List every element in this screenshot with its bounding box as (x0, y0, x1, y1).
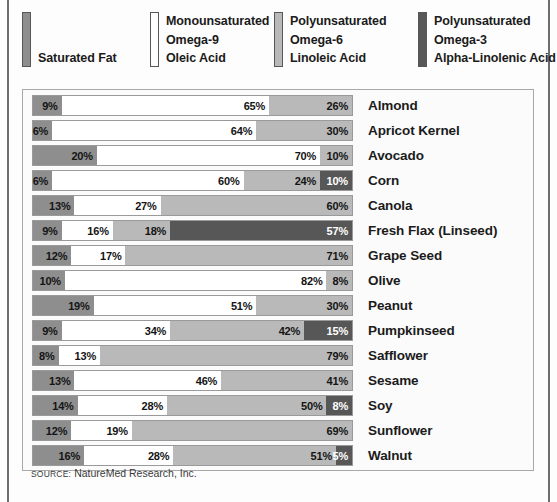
legend-item-omega6: Polyunsaturated Omega-6 Linoleic Acid (274, 12, 386, 68)
bar-segment-value: 8% (332, 275, 352, 287)
bar-segment-omega9: 34% (62, 321, 170, 340)
legend-label-omega9-line1: Monounsaturated (166, 12, 269, 31)
bar-segment-omega6: 30% (256, 296, 352, 315)
legend-label-omega6-line3: Linoleic Acid (290, 49, 386, 68)
bar-segment-omega9: 27% (74, 196, 160, 215)
row-category-label: Avocado (368, 148, 424, 163)
legend-label-omega3-line3: Alpha-Linolenic Acid (434, 49, 556, 68)
chart-row: 12%17%71%Grape Seed (32, 245, 497, 266)
bar-segment-value: 28% (142, 400, 167, 412)
bar-segment-sat: 6% (33, 121, 52, 140)
bar-segment-value: 64% (231, 125, 256, 137)
bar-segment-value: 42% (279, 325, 304, 337)
row-category-label: Peanut (368, 298, 412, 313)
bar-segment-value: 60% (218, 175, 243, 187)
bar-segment-sat: 10% (33, 271, 65, 290)
chart-page: Saturated Fat Monounsaturated Omega-9 Ol… (0, 0, 557, 502)
bar-segment-value: 70% (295, 150, 320, 162)
bar-segment-value: 30% (327, 300, 352, 312)
bar-segment-value: 28% (148, 450, 173, 462)
row-category-label: Olive (368, 273, 401, 288)
chart-panel: 9%65%26%Almond6%64%30%Apricot Kernel20%7… (22, 89, 534, 471)
frame-border-right (548, 0, 550, 502)
bar-segment-omega9: 13% (59, 346, 100, 365)
bar-segment-omega9: 16% (62, 221, 113, 240)
bar-segment-omega6: 69% (132, 421, 352, 440)
chart-row: 6%60%24%10%Corn (32, 170, 497, 191)
chart-row: 9%34%42%15%Pumpkinseed (32, 320, 497, 341)
bar-segment-sat: 12% (33, 421, 71, 440)
bar-segment-value: 17% (100, 250, 125, 262)
chart-row: 12%19%69%Sunflower (32, 420, 497, 441)
bar-segment-value: 51% (231, 300, 256, 312)
chart-row: 9%65%26%Almond (32, 95, 497, 116)
bar-segment-value: 19% (68, 300, 93, 312)
bar-segment-value: 41% (327, 375, 352, 387)
bar-segment-omega6: 24% (244, 171, 321, 190)
chart-row: 13%46%41%Sesame (32, 370, 497, 391)
chart-row: 16%28%51%5%Walnut (32, 445, 497, 466)
bar-segment-value: 57% (327, 225, 352, 237)
stacked-bar: 12%17%71% (32, 245, 353, 266)
chart-row: 9%16%18%57%Fresh Flax (Linseed) (32, 220, 497, 241)
row-category-label: Soy (368, 398, 392, 413)
stacked-bar: 20%70%10% (32, 145, 353, 166)
bar-segment-sat: 16% (33, 446, 84, 465)
bar-segment-omega6: 79% (100, 346, 352, 365)
bar-segment-sat: 9% (33, 221, 62, 240)
legend-label-omega9-line2: Omega-9 (166, 31, 269, 50)
stacked-bar: 19%51%30% (32, 295, 353, 316)
legend-label-omega6-line1: Polyunsaturated (290, 12, 386, 31)
stacked-bar: 16%28%51%5% (32, 445, 353, 466)
row-category-label: Apricot Kernel (368, 123, 460, 138)
bar-segment-value: 19% (106, 425, 131, 437)
bar-segment-omega6: 51% (173, 446, 336, 465)
bar-segment-value: 26% (327, 100, 352, 112)
bar-segment-value: 12% (46, 250, 71, 262)
bar-segment-value: 16% (87, 225, 112, 237)
bar-segment-omega9: 19% (71, 421, 132, 440)
legend-swatch-omega6 (274, 12, 283, 67)
bar-segment-value: 9% (42, 325, 62, 337)
bar-segment-omega9: 17% (71, 246, 125, 265)
row-category-label: Canola (368, 198, 412, 213)
bar-segment-omega9: 28% (84, 446, 173, 465)
bar-segment-omega3: 8% (326, 396, 352, 415)
bar-segment-value: 10% (39, 275, 64, 287)
bar-segment-omega6: 71% (125, 246, 351, 265)
chart-row: 8%13%79%Safflower (32, 345, 497, 366)
bar-segment-omega6: 26% (269, 96, 352, 115)
bar-segment-value: 79% (327, 350, 352, 362)
bar-segment-value: 15% (327, 325, 352, 337)
chart-row: 19%51%30%Peanut (32, 295, 497, 316)
bar-segment-sat: 9% (33, 96, 62, 115)
bar-segment-omega9: 28% (78, 396, 167, 415)
bar-segment-omega6: 50% (167, 396, 327, 415)
bar-segment-omega6: 60% (161, 196, 352, 215)
row-category-label: Sesame (368, 373, 418, 388)
bar-segment-sat: 12% (33, 246, 71, 265)
bar-segment-sat: 13% (33, 196, 74, 215)
chart-row: 6%64%30%Apricot Kernel (32, 120, 497, 141)
chart-legend: Saturated Fat Monounsaturated Omega-9 Ol… (22, 12, 534, 82)
stacked-bar: 13%27%60% (32, 195, 353, 216)
source-text: NatureMed Research, Inc. (74, 467, 197, 479)
bar-segment-value: 8% (332, 400, 352, 412)
row-category-label: Fresh Flax (Linseed) (368, 223, 497, 238)
chart-rows: 9%65%26%Almond6%64%30%Apricot Kernel20%7… (32, 95, 497, 470)
bar-segment-sat: 14% (33, 396, 78, 415)
bar-segment-sat: 9% (33, 321, 62, 340)
stacked-bar: 6%60%24%10% (32, 170, 353, 191)
source-line: Source:NatureMed Research, Inc. (31, 467, 197, 479)
chart-row: 10%82%8%Olive (32, 270, 497, 291)
bar-segment-value: 71% (327, 250, 352, 262)
bar-segment-value: 50% (301, 400, 326, 412)
legend-label-omega9-line3: Oleic Acid (166, 49, 269, 68)
row-category-label: Walnut (368, 448, 412, 463)
stacked-bar: 14%28%50%8% (32, 395, 353, 416)
bar-segment-value: 60% (327, 200, 352, 212)
bar-segment-omega3: 15% (304, 321, 352, 340)
stacked-bar: 8%13%79% (32, 345, 353, 366)
bar-segment-omega6: 18% (113, 221, 170, 240)
bar-segment-sat: 20% (33, 146, 97, 165)
